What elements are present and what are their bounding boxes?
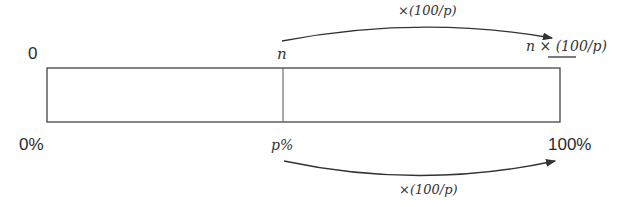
bottom-arrow — [284, 161, 555, 176]
label-bottom-arrow: ×(100/p) — [399, 182, 458, 197]
label-hundred-percent: 100% — [548, 135, 591, 155]
label-top-arrow: ×(100/p) — [398, 3, 457, 18]
top-arrow — [282, 27, 552, 41]
diagram-canvas — [0, 0, 637, 207]
proportion-bar — [47, 68, 560, 122]
label-p-percent: p% — [271, 137, 293, 153]
label-n-times-ratio: n × (100/p) — [526, 38, 607, 54]
label-zero: 0 — [28, 44, 37, 64]
label-n: n — [277, 45, 287, 63]
label-zero-percent: 0% — [19, 135, 44, 155]
